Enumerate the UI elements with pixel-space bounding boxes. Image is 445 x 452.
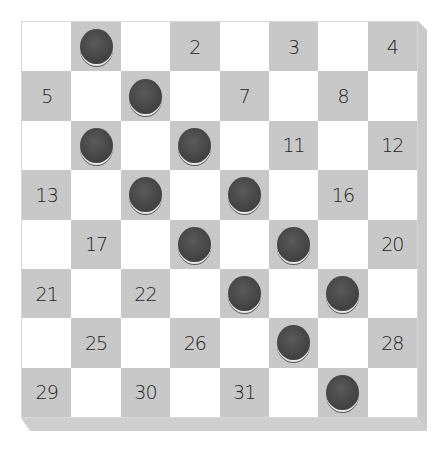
board-square[interactable]: 21	[22, 269, 71, 318]
board-square[interactable]: 8	[318, 71, 367, 120]
board-square[interactable]	[368, 170, 417, 219]
checker-piece[interactable]	[178, 128, 211, 163]
board-square[interactable]	[170, 220, 219, 269]
board-square[interactable]	[121, 121, 170, 170]
board-square[interactable]: 4	[368, 22, 417, 71]
checker-piece[interactable]	[80, 128, 113, 163]
board-square[interactable]	[269, 71, 318, 120]
board-edge-bottom	[21, 418, 427, 431]
board-square[interactable]	[269, 220, 318, 269]
board-square[interactable]	[368, 368, 417, 417]
checker-piece[interactable]	[277, 325, 310, 360]
board-square[interactable]: 16	[318, 170, 367, 219]
board-square[interactable]: 26	[170, 318, 219, 367]
board-square[interactable]	[121, 22, 170, 71]
board-square[interactable]	[220, 318, 269, 367]
board-square[interactable]	[170, 71, 219, 120]
board-square[interactable]: 2	[170, 22, 219, 71]
board-square[interactable]	[71, 368, 120, 417]
square-number: 22	[134, 283, 156, 305]
board-square[interactable]	[170, 269, 219, 318]
square-number: 7	[239, 85, 250, 107]
square-number: 29	[36, 381, 58, 403]
square-number: 25	[85, 332, 107, 354]
checker-piece[interactable]	[178, 227, 211, 262]
board-square[interactable]	[269, 318, 318, 367]
board-square[interactable]: 28	[368, 318, 417, 367]
board-square[interactable]	[22, 318, 71, 367]
board-square[interactable]	[318, 318, 367, 367]
square-number: 17	[85, 233, 107, 255]
board-square[interactable]: 11	[269, 121, 318, 170]
checkerboard: 2345781112131617202122252628293031	[21, 21, 418, 418]
square-number: 21	[36, 283, 58, 305]
square-number: 12	[381, 134, 403, 156]
board-square[interactable]	[71, 170, 120, 219]
board-square[interactable]: 22	[121, 269, 170, 318]
board-square[interactable]	[220, 22, 269, 71]
board-square[interactable]	[220, 170, 269, 219]
board-square[interactable]	[121, 318, 170, 367]
board-square[interactable]	[269, 269, 318, 318]
checker-piece[interactable]	[129, 177, 162, 212]
board-square[interactable]	[170, 170, 219, 219]
board-square[interactable]: 29	[22, 368, 71, 417]
board-square[interactable]: 7	[220, 71, 269, 120]
board-square[interactable]: 30	[121, 368, 170, 417]
board-square[interactable]: 13	[22, 170, 71, 219]
square-number: 26	[184, 332, 206, 354]
board-square[interactable]	[318, 220, 367, 269]
board-square[interactable]	[170, 121, 219, 170]
board-square[interactable]: 25	[71, 318, 120, 367]
board-square[interactable]	[318, 269, 367, 318]
board-square[interactable]: 20	[368, 220, 417, 269]
board-square[interactable]	[269, 368, 318, 417]
checker-piece[interactable]	[326, 375, 359, 410]
square-number: 2	[189, 36, 200, 58]
board-square[interactable]: 17	[71, 220, 120, 269]
board-square[interactable]	[71, 121, 120, 170]
board-square[interactable]: 31	[220, 368, 269, 417]
square-number: 5	[41, 85, 52, 107]
square-number: 4	[387, 36, 398, 58]
checker-piece[interactable]	[277, 227, 310, 262]
board-square[interactable]	[121, 220, 170, 269]
board-square[interactable]	[220, 121, 269, 170]
board-square[interactable]	[318, 22, 367, 71]
square-number: 3	[288, 36, 299, 58]
board-square[interactable]: 12	[368, 121, 417, 170]
square-number: 11	[282, 134, 304, 156]
checker-piece[interactable]	[80, 29, 113, 64]
checker-piece[interactable]	[228, 276, 261, 311]
board-grid: 2345781112131617202122252628293031	[21, 21, 418, 418]
board-square[interactable]	[368, 71, 417, 120]
checker-piece[interactable]	[326, 276, 359, 311]
board-edge-right	[418, 21, 427, 431]
square-number: 8	[337, 85, 348, 107]
board-square[interactable]	[22, 220, 71, 269]
board-square[interactable]	[22, 22, 71, 71]
board-square[interactable]	[269, 170, 318, 219]
checker-piece[interactable]	[228, 177, 261, 212]
board-square[interactable]	[71, 71, 120, 120]
board-square[interactable]	[220, 220, 269, 269]
board-square[interactable]	[22, 121, 71, 170]
board-square[interactable]	[71, 269, 120, 318]
square-number: 30	[134, 381, 156, 403]
checker-piece[interactable]	[129, 79, 162, 114]
board-square[interactable]: 3	[269, 22, 318, 71]
square-number: 31	[233, 381, 255, 403]
board-square[interactable]	[220, 269, 269, 318]
board-square[interactable]	[121, 71, 170, 120]
board-square[interactable]	[170, 368, 219, 417]
board-square[interactable]	[318, 121, 367, 170]
square-number: 28	[381, 332, 403, 354]
square-number: 20	[381, 233, 403, 255]
board-square[interactable]	[121, 170, 170, 219]
board-square[interactable]	[71, 22, 120, 71]
square-number: 16	[332, 184, 354, 206]
board-square[interactable]	[368, 269, 417, 318]
square-number: 13	[36, 184, 58, 206]
board-square[interactable]: 5	[22, 71, 71, 120]
board-square[interactable]	[318, 368, 367, 417]
